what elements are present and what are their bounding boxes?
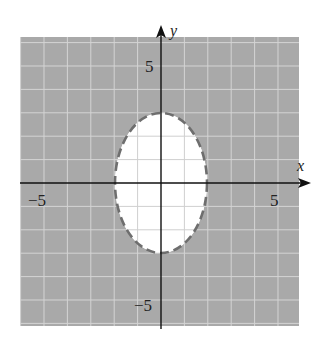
x-tick-label-5: 5: [270, 191, 279, 210]
inequality-graph: x y −5 5 5 −5: [0, 0, 327, 344]
y-tick-label-5: 5: [145, 57, 154, 76]
x-axis-label: x: [296, 157, 304, 174]
y-tick-label-neg5: −5: [134, 296, 152, 315]
x-tick-label-neg5: −5: [28, 191, 46, 210]
y-axis-label: y: [168, 22, 178, 40]
